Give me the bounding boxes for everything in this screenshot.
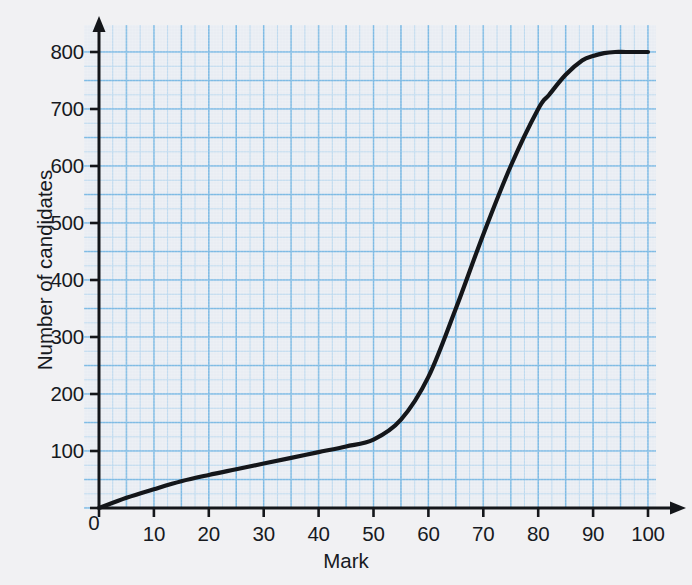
x-tick-label: 40 bbox=[307, 522, 329, 546]
axis-ticks-group bbox=[90, 52, 648, 517]
y-tick-label: 100 bbox=[50, 439, 84, 463]
axes-group bbox=[93, 16, 687, 515]
x-axis-title: Mark bbox=[0, 549, 692, 573]
y-axis-title: Number of candidates bbox=[33, 105, 57, 435]
cumulative-frequency-curve bbox=[99, 52, 648, 508]
x-tick-label: 30 bbox=[252, 522, 274, 546]
y-tick-label: 800 bbox=[50, 40, 84, 64]
x-tick-label: 90 bbox=[582, 522, 604, 546]
plot-drawing-surface bbox=[0, 0, 692, 585]
x-tick-label: 10 bbox=[143, 522, 165, 546]
origin-label: 0 bbox=[84, 511, 104, 535]
x-tick-label: 100 bbox=[631, 522, 665, 546]
x-tick-label: 70 bbox=[472, 522, 494, 546]
x-tick-label: 20 bbox=[198, 522, 220, 546]
x-tick-label: 80 bbox=[527, 522, 549, 546]
x-tick-label: 50 bbox=[362, 522, 384, 546]
x-tick-label: 60 bbox=[417, 522, 439, 546]
chart-figure: 100200300400500600700800 102030405060708… bbox=[0, 0, 692, 585]
